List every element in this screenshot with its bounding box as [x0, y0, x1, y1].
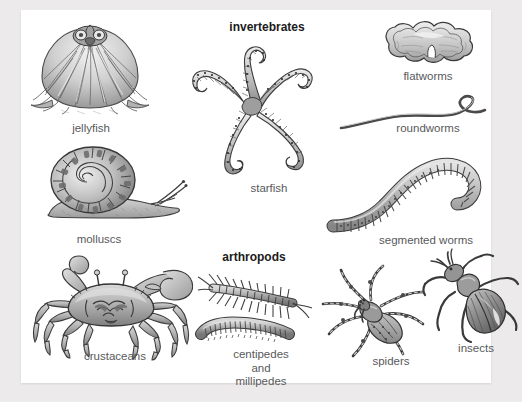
caption-molluscs: molluscs [49, 233, 149, 247]
caption-jellyfish: jellyfish [41, 122, 141, 136]
caption-spiders: spiders [341, 355, 441, 369]
caption-roundworms: roundworms [373, 122, 483, 136]
insects-illustration [417, 248, 522, 343]
heading-arthropods: arthropods [199, 250, 309, 264]
heading-invertebrates: invertebrates [205, 20, 329, 34]
diagram-panel: invertebrates [21, 10, 491, 383]
caption-starfish: starfish [219, 182, 319, 196]
crustaceans-illustration [27, 250, 202, 360]
caption-segmented-worms: segmented worms [361, 234, 491, 248]
caption-flatworms: flatworms [373, 70, 483, 84]
caption-centipedes-millipedes: centipedes and millipedes [211, 348, 311, 389]
caption-insects: insects [431, 342, 521, 356]
molluscs-illustration [31, 142, 191, 228]
flatworms-illustration [373, 14, 483, 70]
starfish-illustration [171, 42, 336, 177]
jellyfish-illustration [25, 16, 155, 116]
segmented-worms-illustration [317, 148, 497, 233]
centipedes-millipedes-illustration [193, 268, 323, 348]
caption-crustaceans: crustaceans [55, 350, 175, 364]
